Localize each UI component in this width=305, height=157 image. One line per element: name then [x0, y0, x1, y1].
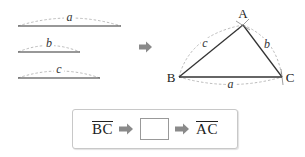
right-arrow-icon — [139, 42, 152, 53]
segment-bc-label: BC — [92, 121, 113, 138]
segment-b: b — [18, 36, 80, 52]
vertex-c-label: C — [286, 70, 295, 85]
segment-c: c — [18, 62, 100, 78]
label-c: c — [56, 62, 62, 76]
side-label-c: c — [202, 36, 208, 50]
segment-a: a — [18, 10, 121, 26]
vertex-a-label: A — [238, 6, 248, 21]
right-arrow-icon — [119, 123, 134, 135]
construction-sequence-box: BC AC — [72, 109, 238, 149]
segment-ac-label: AC — [196, 121, 218, 138]
side-ab — [179, 25, 243, 77]
right-arrow-icon — [175, 123, 190, 135]
label-b: b — [46, 36, 52, 50]
answer-blank-box[interactable] — [140, 118, 169, 140]
side-label-a: a — [228, 77, 234, 91]
triangle-abc: A B C c b a — [167, 6, 295, 91]
side-label-b: b — [264, 37, 270, 51]
label-a: a — [67, 10, 73, 24]
side-ac — [243, 25, 282, 77]
vertex-b-label: B — [167, 70, 176, 85]
